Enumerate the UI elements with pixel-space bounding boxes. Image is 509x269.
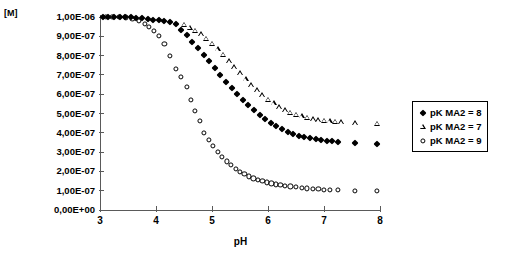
data-point: [123, 15, 128, 20]
x-axis-tick-label: 3: [85, 215, 115, 227]
series-3: [100, 17, 380, 210]
open-circle-icon: [417, 135, 428, 146]
data-point: [273, 182, 278, 187]
data-point: [299, 185, 304, 190]
y-axis-tick-label: 1,00E-07: [56, 185, 95, 197]
data-point: [237, 169, 242, 174]
data-point: [321, 187, 326, 192]
data-point: [327, 187, 332, 192]
data-point: [184, 84, 189, 89]
y-axis-tick-label: 5,00E-07: [56, 108, 95, 120]
legend-item-label: pK MA2 = 9: [430, 135, 481, 146]
y-axis-tick: 2,00E-07: [0, 165, 108, 177]
data-point: [130, 16, 135, 21]
x-axis-tick-label: 6: [253, 215, 283, 227]
y-axis-tick-label: 6,00E-07: [56, 88, 95, 100]
y-axis-tick-label: 2,00E-07: [56, 165, 95, 177]
legend-item[interactable]: pK MA2 = 7: [417, 119, 481, 133]
data-point: [211, 144, 216, 149]
x-axis-tick-mark: [380, 206, 381, 212]
legend-item-label: pK MA2 = 8: [430, 107, 481, 118]
legend: pK MA2 = 8pK MA2 = 7pK MA2 = 9: [412, 101, 488, 152]
y-axis-tick: 4,00E-07: [0, 127, 108, 139]
x-axis-tick-label: 5: [197, 215, 227, 227]
legend-item[interactable]: pK MA2 = 9: [417, 133, 481, 147]
data-point: [137, 18, 142, 23]
legend-item-label: pK MA2 = 7: [430, 121, 481, 132]
y-axis-tick-label: 4,00E-07: [56, 127, 95, 139]
data-point: [147, 24, 152, 29]
data-point: [316, 187, 321, 192]
data-point: [224, 159, 229, 164]
x-axis-tick-label: 7: [309, 215, 339, 227]
data-point: [202, 130, 207, 135]
data-point: [142, 21, 147, 26]
data-point: [282, 183, 287, 188]
data-point: [246, 174, 251, 179]
data-point: [110, 14, 115, 19]
data-point: [264, 180, 269, 185]
data-point: [215, 150, 220, 155]
data-point: [173, 67, 178, 72]
data-point: [269, 181, 274, 186]
y-axis-tick: 1,00E-07: [0, 185, 108, 197]
open-triangle-icon: [417, 121, 428, 132]
x-axis-tick-label: 8: [365, 215, 395, 227]
x-axis-tick-label: 4: [141, 215, 171, 227]
data-point: [288, 184, 293, 189]
data-point: [260, 179, 265, 184]
data-point: [335, 188, 340, 193]
y-axis-tick-label: 8,00E-07: [56, 50, 95, 62]
data-point: [151, 28, 156, 33]
y-axis-tick: 3,00E-07: [0, 146, 108, 158]
filled-diamond-icon: [417, 107, 428, 118]
x-axis-title: pH: [100, 236, 381, 247]
y-axis-tick: 5,00E-07: [0, 108, 108, 120]
data-point: [375, 188, 380, 193]
y-axis-tick-label: 9,00E-07: [56, 30, 95, 42]
data-point: [310, 186, 315, 191]
y-axis-tick-label: 1,00E-06: [56, 11, 95, 23]
plot-area: [100, 17, 380, 210]
data-point: [206, 138, 211, 143]
data-point: [242, 172, 247, 177]
y-axis-tick: 7,00E-07: [0, 69, 108, 81]
data-point: [116, 14, 121, 19]
data-point: [179, 74, 184, 79]
data-point: [219, 155, 224, 160]
data-point: [251, 176, 256, 181]
data-point: [293, 185, 298, 190]
legend-item[interactable]: pK MA2 = 8: [417, 105, 481, 119]
y-axis-tick-label: 7,00E-07: [56, 69, 95, 81]
data-point: [156, 33, 161, 38]
y-axis-tick: 1,00E-06: [0, 11, 108, 23]
data-point: [233, 166, 238, 171]
data-point: [305, 186, 310, 191]
y-axis-tick: 8,00E-07: [0, 50, 108, 62]
data-point: [255, 177, 260, 182]
data-point: [167, 53, 172, 58]
data-point: [162, 41, 167, 46]
chart-container: [M] 1,00E-069,00E-078,00E-077,00E-076,00…: [0, 0, 509, 269]
data-point: [352, 188, 357, 193]
data-point: [228, 163, 233, 168]
y-axis-tick-label: 3,00E-07: [56, 146, 95, 158]
x-axis-line: [100, 210, 381, 211]
data-point: [193, 109, 198, 114]
data-point: [278, 183, 283, 188]
y-axis-tick: 6,00E-07: [0, 88, 108, 100]
y-axis-tick: 9,00E-07: [0, 30, 108, 42]
data-point: [197, 118, 202, 123]
data-point: [188, 97, 193, 102]
